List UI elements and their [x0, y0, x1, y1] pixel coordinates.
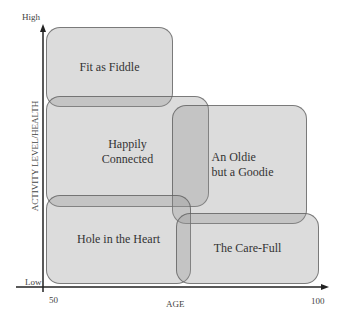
segment-label-line1: An Oldie: [212, 150, 256, 164]
y-axis-high-label: High: [22, 12, 40, 22]
y-axis-title: ACTIVITY LEVEL/HEALTH: [30, 101, 40, 212]
segment-label-line2: Connected: [102, 152, 153, 166]
x-axis-max-label: 100: [311, 296, 325, 306]
segment-care-full: The Care-Full: [176, 213, 319, 284]
segment-label-line2: but a Goodie: [212, 165, 274, 179]
segment-label: Happily Connected: [102, 137, 153, 167]
x-axis-arrow-icon: [321, 284, 329, 290]
x-axis-title: AGE: [166, 299, 185, 309]
y-axis-low-label: Low: [25, 277, 42, 287]
segment-hole-in-heart: Hole in the Heart: [46, 195, 191, 284]
segment-label: Fit as Fiddle: [79, 60, 139, 75]
segment-label: The Care-Full: [214, 241, 282, 256]
segment-label-line1: Happily: [108, 137, 147, 151]
segment-oldie-goodie: An Oldie but a Goodie: [172, 105, 307, 224]
x-axis-min-label: 50: [49, 295, 58, 305]
y-axis-arrow-icon: [40, 24, 46, 32]
segment-label: An Oldie but a Goodie: [212, 150, 274, 180]
segment-fit-as-fiddle: Fit as Fiddle: [46, 27, 173, 107]
segment-label: Hole in the Heart: [77, 232, 160, 247]
